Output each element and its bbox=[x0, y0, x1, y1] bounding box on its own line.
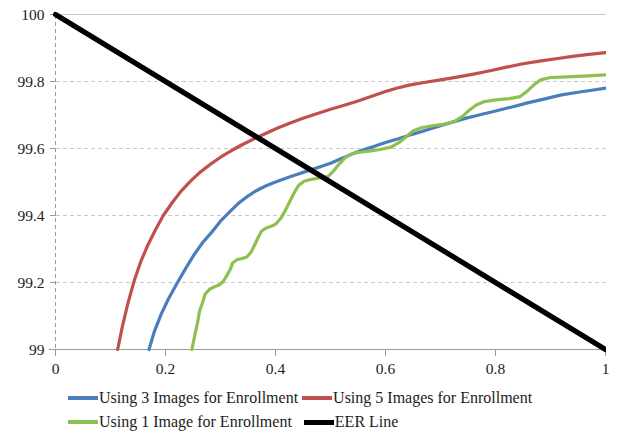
legend-label: Using 1 Image for Enrollment bbox=[99, 414, 292, 430]
legend-row-1: Using 3 Images for EnrollmentUsing 5 Ima… bbox=[68, 390, 532, 406]
y-tick-label-0: 99 bbox=[29, 341, 45, 358]
y-tick-label-3: 99.6 bbox=[17, 140, 44, 157]
x-tick-label-4: 0.8 bbox=[486, 360, 506, 377]
legend-item[interactable]: Using 5 Images for Enrollment bbox=[302, 390, 532, 406]
legend-label: EER Line bbox=[335, 414, 399, 430]
x-tick-label-2: 0.4 bbox=[266, 360, 286, 377]
roc-chart: 9999.299.499.699.810000.20.40.60.81 Usin… bbox=[0, 0, 621, 439]
legend-item[interactable]: Using 1 Image for Enrollment bbox=[68, 414, 292, 430]
series-line-2 bbox=[192, 75, 606, 350]
y-tick-label-2: 99.4 bbox=[17, 207, 44, 224]
x-tick-label-3: 0.6 bbox=[376, 360, 396, 377]
plot-right-clip bbox=[606, 0, 621, 355]
x-tick-label-1: 0.2 bbox=[156, 360, 175, 377]
legend-swatch-red bbox=[302, 396, 332, 400]
legend-row-2: Using 1 Image for EnrollmentEER Line bbox=[68, 414, 398, 430]
legend-label: Using 5 Images for Enrollment bbox=[333, 390, 532, 406]
x-tick-label-5: 1 bbox=[602, 360, 610, 377]
y-tick-label-1: 99.2 bbox=[17, 274, 44, 291]
legend-swatch-black bbox=[304, 420, 334, 425]
legend-item[interactable]: EER Line bbox=[304, 414, 399, 430]
legend-swatch-green bbox=[68, 420, 98, 424]
legend-item[interactable]: Using 3 Images for Enrollment bbox=[68, 390, 298, 406]
legend-label: Using 3 Images for Enrollment bbox=[99, 390, 298, 406]
y-tick-label-5: 100 bbox=[21, 6, 45, 23]
chart-plot-area: 9999.299.499.699.810000.20.40.60.81 bbox=[0, 0, 621, 439]
y-tick-label-4: 99.8 bbox=[17, 73, 44, 90]
x-tick-label-0: 0 bbox=[52, 360, 60, 377]
legend-swatch-blue bbox=[68, 396, 98, 400]
